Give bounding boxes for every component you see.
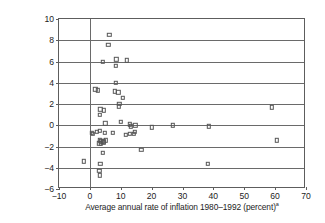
x-tick — [59, 187, 60, 190]
y-tick — [56, 19, 59, 20]
x-axis-label: Average annual rate of inflation 1980–19… — [58, 201, 306, 212]
plot-area: −6−4−20246810 −10010203040506070 — [58, 18, 305, 188]
data-point-marker — [101, 59, 105, 63]
data-point-marker — [206, 161, 210, 165]
data-point-marker — [139, 147, 143, 151]
x-tick — [90, 187, 91, 190]
y-tick-label: −4 — [44, 163, 54, 172]
data-point-marker — [133, 129, 137, 133]
data-point-marker — [82, 159, 86, 163]
gridline — [59, 104, 304, 105]
x-tick — [121, 187, 122, 190]
gridline — [59, 125, 304, 126]
scatter-chart-figure: Annual growth rate in real GNP per capit… — [0, 0, 325, 223]
x-tick — [306, 187, 307, 190]
gridline — [59, 62, 304, 63]
x-tick — [183, 187, 184, 190]
data-point-marker — [113, 81, 117, 85]
x-tick-label: 10 — [116, 192, 126, 201]
gridline — [59, 83, 304, 84]
y-tick-label: 4 — [49, 78, 54, 87]
x-tick-label: 40 — [209, 192, 219, 201]
x-tick-label: 70 — [301, 192, 311, 201]
data-point-marker — [119, 120, 123, 124]
x-tick-label: 30 — [178, 192, 188, 201]
data-point-marker — [98, 112, 102, 116]
x-axis-label-text: Average annual rate of inflation 1980–19… — [85, 202, 276, 212]
x-tick — [152, 187, 153, 190]
y-tick — [56, 62, 59, 63]
data-point-marker — [103, 138, 107, 142]
data-point-marker — [207, 124, 211, 128]
x-tick-label: 60 — [270, 192, 280, 201]
data-point-marker — [106, 42, 110, 46]
data-point-marker — [98, 161, 102, 165]
x-tick — [275, 187, 276, 190]
y-tick-label: 8 — [49, 36, 54, 45]
y-tick — [56, 168, 59, 169]
y-tick-label: −2 — [44, 142, 54, 151]
data-point-marker — [114, 64, 118, 68]
x-tick-label: 20 — [147, 192, 157, 201]
y-tick — [56, 83, 59, 84]
x-tick — [244, 187, 245, 190]
x-tick — [213, 187, 214, 190]
gridline — [59, 168, 304, 169]
data-point-marker — [98, 128, 102, 132]
data-point-marker — [124, 58, 128, 62]
x-tick-label: 50 — [239, 192, 249, 201]
y-tick — [56, 40, 59, 41]
data-point-marker — [270, 105, 274, 109]
gridline — [59, 40, 304, 41]
data-point-marker — [103, 121, 107, 125]
data-point-marker — [116, 90, 120, 94]
x-tick-label: −10 — [52, 192, 67, 201]
data-point-marker — [170, 123, 174, 127]
data-point-marker — [133, 123, 137, 127]
data-point-marker — [102, 108, 106, 112]
data-point-marker — [274, 138, 278, 142]
data-point-marker — [120, 95, 124, 99]
y-tick-label: 10 — [44, 15, 54, 24]
data-point-marker — [149, 125, 153, 129]
data-point-marker — [107, 33, 111, 37]
x-axis-label-footnote: a — [276, 201, 279, 207]
data-point-marker — [117, 104, 121, 108]
data-point-marker — [98, 173, 102, 177]
y-tick-label: 2 — [49, 100, 54, 109]
y-tick — [56, 104, 59, 105]
y-tick-label: 0 — [49, 121, 54, 130]
gridline — [59, 147, 304, 148]
zero-line — [90, 19, 91, 187]
data-point-marker — [101, 151, 105, 155]
y-tick-label: 6 — [49, 57, 54, 66]
y-tick — [56, 147, 59, 148]
data-point-marker — [103, 130, 107, 134]
y-tick — [56, 125, 59, 126]
data-point-marker — [96, 88, 100, 92]
data-point-marker — [114, 57, 118, 61]
x-tick-label: 0 — [87, 192, 92, 201]
data-point-marker — [111, 130, 115, 134]
